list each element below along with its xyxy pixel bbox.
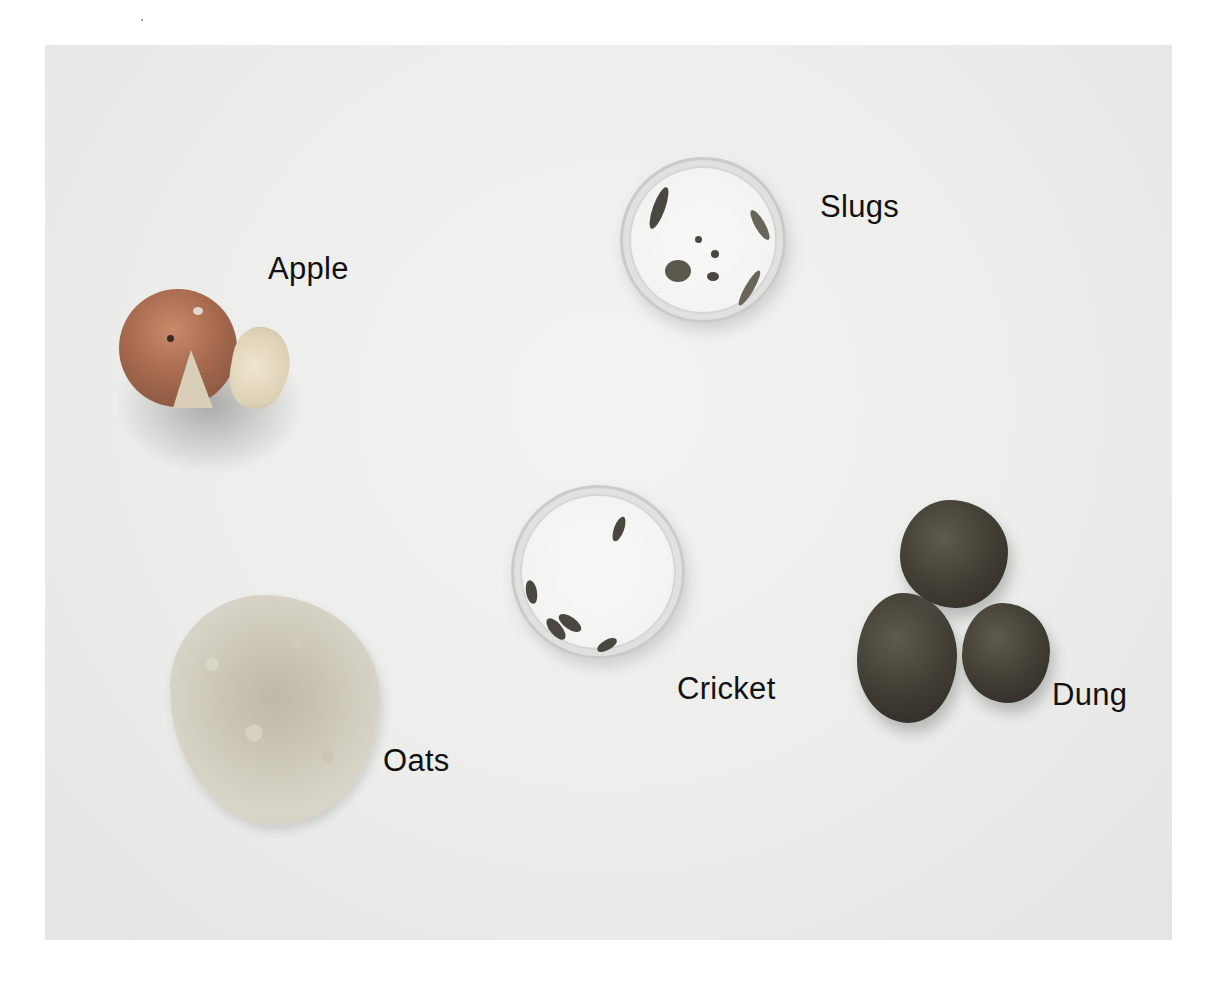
dung-pellet <box>900 500 1008 608</box>
label-oats: Oats <box>383 745 450 776</box>
dung-pellet <box>857 593 957 723</box>
label-dung: Dung <box>1052 679 1127 710</box>
cricket <box>610 515 628 543</box>
debris <box>707 272 719 281</box>
cricket <box>524 579 539 605</box>
slug <box>646 185 672 230</box>
apple-cut-wedge <box>173 350 213 408</box>
cricket <box>595 635 619 655</box>
debris <box>695 236 702 243</box>
apple-stem <box>167 335 174 342</box>
cricket-petri-dish <box>511 485 685 659</box>
debris <box>711 250 719 258</box>
apple-highlight <box>193 307 203 315</box>
slug <box>665 260 691 282</box>
photograph: Apple Slugs Cricket Dung Oats <box>45 45 1172 940</box>
slug <box>736 268 764 307</box>
oats-pile <box>170 595 380 825</box>
slug <box>747 208 773 242</box>
slugs-petri-dish <box>620 157 786 323</box>
dung-pellet <box>962 603 1050 703</box>
label-slugs: Slugs <box>820 191 899 222</box>
label-cricket: Cricket <box>677 673 776 704</box>
print-speck <box>141 19 143 21</box>
label-apple: Apple <box>268 253 349 284</box>
